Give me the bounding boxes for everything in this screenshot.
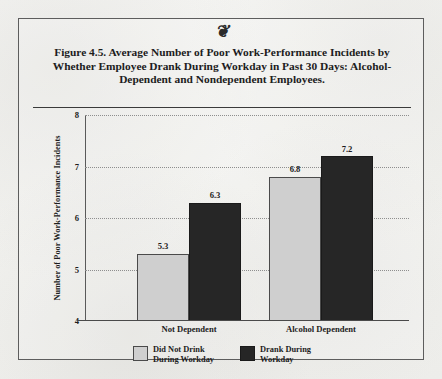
plot-area: 5.36.36.87.2 Not DependentAlcohol Depend…: [85, 115, 409, 321]
chart-plot-wrapper: Number of Poor Work-Performance Incident…: [19, 115, 425, 327]
chart-legend: Did Not Drink During WorkdayDrank During…: [19, 345, 425, 364]
category-label-alcohol-dependent: Alcohol Dependent: [286, 324, 356, 334]
category-label-not-dependent: Not Dependent: [161, 324, 216, 334]
figure-page: ❦ Figure 4.5. Average Number of Poor Wor…: [0, 0, 442, 379]
title-divider: [33, 107, 411, 108]
figure-title: Figure 4.5. Average Number of Poor Work-…: [33, 46, 411, 87]
bar-not-dependent-did-not-drink: [137, 254, 189, 321]
legend-swatch-dark: [240, 346, 255, 361]
legend-swatch-light: [133, 346, 148, 361]
ornament-glyph: ❦: [19, 23, 423, 40]
y-axis-tick-6: 6: [75, 214, 79, 223]
y-axis-tick-8: 8: [75, 111, 79, 120]
bar-value-label: 6.8: [290, 165, 301, 174]
bar-value-label: 5.3: [158, 242, 169, 251]
bar-value-label: 7.2: [342, 145, 353, 154]
y-axis-tick-5: 5: [75, 265, 79, 274]
y-axis-tick-7: 7: [75, 162, 79, 171]
legend-item-did-not-drink[interactable]: Did Not Drink During Workday: [133, 345, 214, 364]
legend-item-drank[interactable]: Drank During Workday: [240, 345, 311, 364]
legend-label: Did Not Drink During Workday: [153, 345, 214, 364]
y-axis-tick-labels: 45678: [59, 115, 81, 321]
legend-label: Drank During Workday: [260, 345, 311, 364]
y-axis-tick-4: 4: [75, 317, 79, 326]
bar-value-label: 6.3: [210, 191, 221, 200]
bar-alcohol-dependent-drank: [321, 156, 373, 321]
x-axis-line: [77, 320, 409, 321]
figure-frame: ❦ Figure 4.5. Average Number of Poor Wor…: [18, 18, 424, 360]
bar-not-dependent-drank: [189, 203, 241, 321]
gridline-8: [85, 115, 409, 116]
figure-title-block: Figure 4.5. Average Number of Poor Work-…: [33, 46, 411, 87]
bar-alcohol-dependent-did-not-drink: [269, 177, 321, 321]
